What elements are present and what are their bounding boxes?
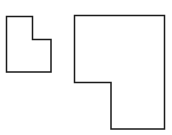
diagram-canvas <box>0 0 172 135</box>
background <box>0 0 172 135</box>
